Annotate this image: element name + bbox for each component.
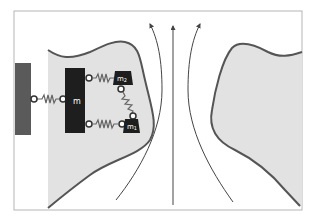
mass-m1-label: m1 — [127, 123, 137, 131]
mass-m2-label: m2 — [117, 75, 127, 83]
fixed-wall — [15, 63, 31, 135]
diagram-canvas: m m2 m1 — [0, 0, 314, 224]
main-mass-label: m — [73, 97, 81, 106]
